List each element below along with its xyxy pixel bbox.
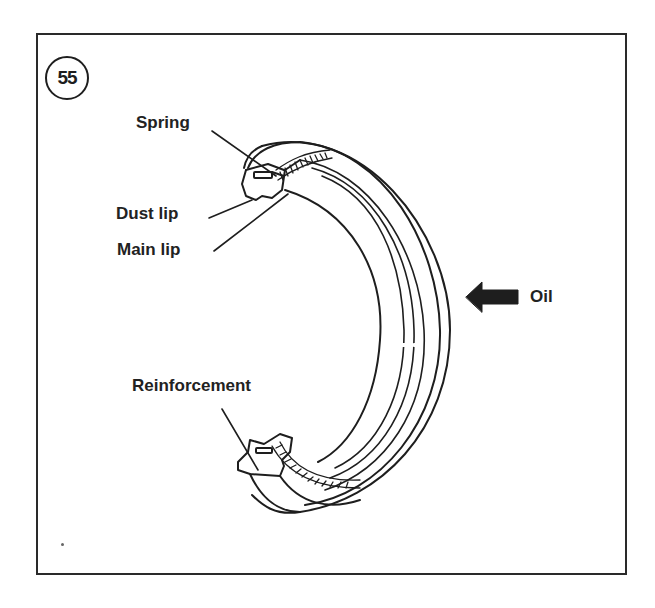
oil-direction-arrow-icon (466, 282, 518, 312)
scan-speck (61, 543, 64, 546)
oil-seal-drawing (0, 0, 655, 608)
top-spring (276, 150, 332, 180)
reinforcement-label: Reinforcement (132, 377, 251, 394)
spring-label: Spring (136, 114, 190, 131)
main-lip-leader (214, 194, 288, 251)
main-lip-label: Main lip (117, 241, 180, 258)
dust-lip-leader (209, 200, 252, 218)
seal-outer-body (244, 142, 450, 513)
dust-lip-label: Dust lip (116, 205, 178, 222)
leader-lines (209, 131, 288, 470)
top-cross-section (242, 160, 300, 200)
oil-label: Oil (530, 288, 553, 305)
spring-leader (212, 131, 276, 176)
